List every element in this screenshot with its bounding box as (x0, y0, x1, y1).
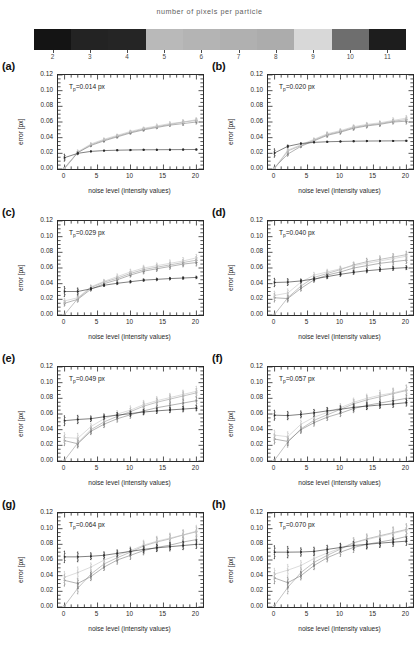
x-tick-label: 20 (192, 318, 199, 325)
y-tick-label-top: 0.12 (27, 362, 53, 369)
y-tick-label: 0.02 (27, 148, 53, 155)
x-axis-label: noise level (intensity values) (267, 333, 412, 340)
series-1 (274, 251, 408, 315)
y-tick-label: 0.00 (237, 164, 263, 171)
colorbar-segment-10 (332, 29, 369, 50)
y-tick-label-top: 0.12 (237, 362, 263, 369)
x-tick-label: 15 (159, 464, 166, 471)
x-tick-label: 0 (272, 464, 276, 471)
y-tick-label: 0.04 (237, 425, 263, 432)
colorbar-segment-7 (220, 29, 257, 50)
x-tick-label: 15 (159, 610, 166, 617)
y-tick-label: 0.06 (237, 117, 263, 124)
y-axis-label: error [px] (227, 265, 234, 291)
y-tick-label: 0.08 (237, 393, 263, 400)
y-tick-label: 0.06 (27, 409, 53, 416)
colorbar-tick-label: 10 (347, 53, 354, 60)
series-1 (274, 523, 408, 607)
y-tick-label-top: 0.12 (237, 508, 263, 515)
y-axis-label: error [px] (227, 557, 234, 583)
y-tick-label: 0.04 (27, 133, 53, 140)
series-2 (64, 396, 198, 448)
x-tick-label: 10 (336, 464, 343, 471)
colorbar-segment-6 (183, 29, 220, 50)
panel-c: (c)0.12error [px]noise level (intensity … (0, 206, 209, 354)
y-tick-label: 0.10 (237, 232, 263, 239)
panel-label-c: (c) (2, 206, 15, 218)
y-tick-label: 0.06 (237, 263, 263, 270)
panel-grid: (a)0.12error [px]noise level (intensity … (0, 60, 419, 655)
x-tick-label: 20 (192, 464, 199, 471)
x-axis-label: noise level (intensity values) (267, 187, 412, 194)
panel-b: (b)0.12error [px]noise level (intensity … (210, 60, 419, 208)
colorbar-tick-label: 6 (200, 53, 204, 60)
y-tick-label: 0.08 (27, 539, 53, 546)
series-1 (64, 388, 198, 461)
y-tick-label: 0.10 (27, 524, 53, 531)
series-2 (274, 394, 408, 446)
x-tick-label: 0 (62, 172, 66, 179)
x-tick-label: 10 (126, 610, 133, 617)
x-tick-label: 0 (62, 464, 66, 471)
y-tick-label: 0.00 (237, 456, 263, 463)
x-tick-label: 5 (305, 464, 309, 471)
y-tick-label: 0.06 (27, 117, 53, 124)
y-tick-label: 0.10 (237, 86, 263, 93)
panel-label-h: (h) (212, 498, 225, 510)
colorbar-block: number of pixels per particle 2345678910… (0, 0, 419, 60)
x-axis-label: noise level (intensity values) (57, 625, 202, 632)
colorbar-tick-label: 8 (274, 53, 278, 60)
x-tick-label: 20 (402, 318, 409, 325)
x-tick-label: 10 (336, 610, 343, 617)
x-tick-label: 0 (272, 172, 276, 179)
y-tick-label: 0.06 (237, 555, 263, 562)
y-tick-label-top: 0.12 (27, 70, 53, 77)
colorbar-tick-label: 9 (311, 53, 315, 60)
series-4 (64, 148, 198, 161)
y-tick-label: 0.06 (27, 555, 53, 562)
y-tick-label: 0.00 (27, 602, 53, 609)
x-tick-label: 10 (126, 464, 133, 471)
x-tick-label: 15 (159, 318, 166, 325)
colorbar-segment-9 (294, 29, 331, 50)
series-2 (274, 256, 408, 302)
y-tick-label: 0.00 (27, 456, 53, 463)
panel-label-e: (e) (2, 352, 15, 364)
y-tick-label: 0.08 (237, 539, 263, 546)
panel-annotation-c: Tp=0.029 px (69, 229, 105, 238)
y-axis-label: error [px] (17, 119, 24, 145)
panel-e: (e)0.12error [px]noise level (intensity … (0, 352, 209, 500)
x-tick-label: 0 (62, 318, 66, 325)
y-tick-label: 0.02 (27, 586, 53, 593)
x-tick-label: 0 (272, 610, 276, 617)
x-tick-label: 5 (305, 318, 309, 325)
y-tick-label: 0.08 (27, 101, 53, 108)
panel-annotation-f: Tp=0.057 px (279, 375, 315, 384)
colorbar-segment-2 (34, 29, 71, 50)
colorbar-segment-5 (146, 29, 183, 50)
y-tick-label: 0.02 (237, 586, 263, 593)
panel-label-f: (f) (212, 352, 222, 364)
panel-annotation-h: Tp=0.070 px (279, 521, 315, 530)
x-tick-label: 10 (126, 318, 133, 325)
y-tick-label: 0.08 (237, 101, 263, 108)
x-tick-label: 5 (95, 610, 99, 617)
panel-d: (d)0.12error [px]noise level (intensity … (210, 206, 419, 354)
colorbar-segment-3 (71, 29, 108, 50)
y-tick-label: 0.08 (237, 247, 263, 254)
panel-label-d: (d) (212, 206, 225, 218)
series-1 (274, 385, 408, 461)
x-tick-label: 10 (126, 172, 133, 179)
series-2 (64, 534, 198, 589)
y-tick-label: 0.02 (27, 294, 53, 301)
y-tick-label: 0.04 (27, 425, 53, 432)
x-tick-label: 0 (62, 610, 66, 617)
y-axis-label: error [px] (17, 265, 24, 291)
series-3 (64, 117, 198, 169)
y-tick-label: 0.06 (237, 409, 263, 416)
panel-label-a: (a) (2, 60, 15, 72)
series-1 (64, 526, 198, 607)
colorbar-segment-11 (369, 29, 406, 50)
panel-label-g: (g) (2, 498, 15, 510)
x-tick-label: 15 (369, 610, 376, 617)
